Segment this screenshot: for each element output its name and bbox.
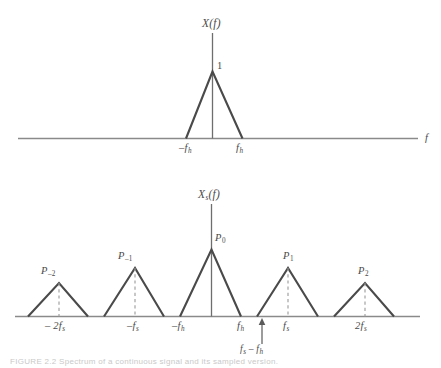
bottom-tick-neg-fh: –fh (172, 320, 185, 333)
replica-triangle-p-minus-2 (28, 283, 88, 317)
top-tick-neg-fh: –fh (179, 142, 192, 155)
top-peak-value-label: 1 (217, 60, 222, 71)
peak-label-p-2: P2 (358, 265, 369, 278)
gap-annotation-label: fs – fh (240, 344, 263, 356)
replica-triangle-p-minus-1 (104, 268, 164, 317)
peak-label-p-minus-2: P–2 (41, 265, 56, 278)
top-signal-label: X(f) (202, 17, 221, 29)
peak-label-p-0: P0 (215, 232, 226, 245)
bottom-tick-pos-fh: fh (237, 320, 244, 333)
figure-caption: FIGURE 2.2 Spectrum of a continuous sign… (10, 357, 278, 368)
top-tick-pos-fh: fh (236, 142, 243, 155)
bottom-tick-2fs: 2fs (355, 320, 367, 333)
bottom-tick-fs: fs (283, 320, 289, 333)
top-x-axis-label: f (425, 132, 428, 143)
figure-sampling-spectrum (0, 0, 441, 368)
top-triangle-spectrum (186, 72, 243, 139)
peak-label-p-minus-1: P–1 (118, 250, 133, 263)
bottom-signal-label: Xs(f) (198, 188, 220, 202)
top-plot (18, 33, 418, 139)
bottom-tick-neg-2fs: – 2fs (45, 320, 65, 333)
peak-label-p-1: P1 (283, 250, 294, 263)
replica-triangle-p-2 (334, 283, 394, 317)
replica-triangle-p-0 (180, 250, 241, 317)
gap-annotation-arrow (259, 318, 266, 344)
bottom-tick-neg-fs: –fs (127, 320, 139, 333)
